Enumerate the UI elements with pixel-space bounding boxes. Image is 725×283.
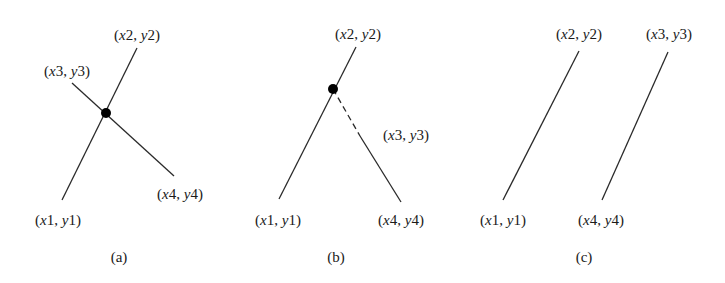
intersection-dot xyxy=(101,108,111,118)
label-b-p4: (x4, y4) xyxy=(378,213,424,228)
label-b-p1: (x1, y1) xyxy=(255,213,301,228)
segment-p3-p4 xyxy=(360,136,401,202)
segment-p4-p3 xyxy=(602,52,668,200)
label-a-p4: (x4, y4) xyxy=(157,187,203,202)
label-a-p1: (x1, y1) xyxy=(35,213,81,228)
diagram-lines xyxy=(0,0,725,283)
label-c-p2: (x2, y2) xyxy=(556,27,602,42)
label-c-p4: (x4, y4) xyxy=(578,213,624,228)
extension-dashed xyxy=(333,89,360,136)
segment-p3-p4 xyxy=(72,83,174,176)
segment-p1-p2 xyxy=(503,51,579,200)
panel-c-graphics xyxy=(503,51,668,200)
label-b-p2: (x2, y2) xyxy=(335,27,381,42)
caption-c: (c) xyxy=(576,250,593,265)
label-a-p3: (x3, y3) xyxy=(44,64,90,79)
figure-canvas: (x2, y2) (x3, y3) (x4, y4) (x1, y1) (a) … xyxy=(0,0,725,283)
panel-b-graphics xyxy=(279,47,401,202)
segment-p1-p2 xyxy=(279,47,356,199)
label-b-p3: (x3, y3) xyxy=(383,128,429,143)
intersection-dot xyxy=(328,84,338,94)
label-a-p2: (x2, y2) xyxy=(114,28,160,43)
caption-b: (b) xyxy=(327,250,345,265)
label-c-p1: (x1, y1) xyxy=(480,213,526,228)
caption-a: (a) xyxy=(111,250,128,265)
label-c-p3: (x3, y3) xyxy=(646,27,692,42)
